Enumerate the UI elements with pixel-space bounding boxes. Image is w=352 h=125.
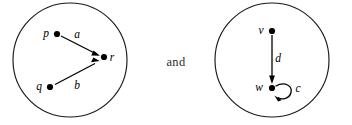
- node-v: v: [258, 24, 275, 36]
- node-r: r: [101, 51, 115, 63]
- edge-c-loop-path: [276, 84, 292, 99]
- edge-d: d: [269, 35, 281, 84]
- node-v-label: v: [258, 24, 264, 36]
- left-graph: a b p q r: [13, 3, 127, 117]
- right-graph: d c v w: [215, 3, 329, 117]
- graph-figure: a b p q r an: [0, 0, 352, 125]
- node-p: p: [42, 27, 60, 40]
- node-w-dot: [269, 85, 275, 91]
- edge-c-label: c: [295, 82, 300, 94]
- edge-b-label: b: [74, 79, 80, 91]
- edge-d-label: d: [275, 52, 281, 64]
- node-q-dot: [47, 84, 53, 90]
- conjunction-text: and: [167, 55, 186, 69]
- edge-b-arrowhead: [91, 58, 100, 63]
- node-r-label: r: [110, 51, 115, 63]
- node-p-dot: [54, 31, 60, 37]
- node-w-label: w: [255, 81, 263, 93]
- edge-b: b: [55, 58, 100, 91]
- node-q-label: q: [36, 80, 42, 93]
- node-p-label: p: [42, 27, 49, 40]
- graph-canvas: a b p q r an: [0, 0, 352, 125]
- node-v-dot: [269, 28, 275, 34]
- edge-a-label: a: [74, 28, 80, 40]
- edge-c-self-loop: c: [274, 82, 300, 102]
- node-q: q: [36, 80, 53, 93]
- edge-d-arrowhead: [269, 75, 275, 84]
- node-r-dot: [101, 54, 107, 60]
- edge-a: a: [61, 28, 100, 56]
